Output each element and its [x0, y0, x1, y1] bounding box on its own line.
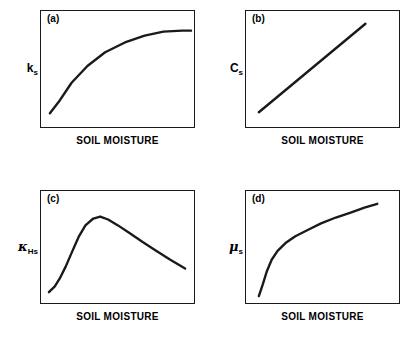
panel-a-curve: [41, 11, 194, 127]
panel-a-y-axis-label: ks: [0, 62, 38, 77]
panel-a-curve-path: [50, 31, 191, 114]
panel-c-x-axis-label: SOIL MOISTURE: [40, 311, 195, 322]
figure-soil-moisture-relationships: ks (a) SOIL MOISTURE Cs (b) SOIL MOISTUR…: [0, 0, 407, 340]
panel-b-plot-frame: (b): [245, 10, 400, 128]
panel-c-curve: [41, 191, 194, 303]
panel-d-y-axis-label: μs: [205, 240, 243, 256]
panel-a-y-symbol: k: [27, 61, 34, 75]
panel-c-y-axis-label: κHs: [0, 240, 38, 256]
panel-a-x-axis-label: SOIL MOISTURE: [40, 135, 195, 146]
panel-b-y-subscript: s: [239, 68, 243, 77]
panel-b-x-axis-label: SOIL MOISTURE: [245, 135, 400, 146]
panel-a-y-subscript: s: [34, 68, 38, 77]
panel-d: μs (d) SOIL MOISTURE: [205, 184, 405, 340]
panel-b-y-symbol: C: [230, 61, 239, 75]
panel-b: Cs (b) SOIL MOISTURE: [205, 4, 405, 164]
panel-d-y-symbol: μ: [229, 239, 239, 254]
panel-c-curve-path: [49, 217, 185, 293]
panel-b-y-axis-label: Cs: [205, 62, 243, 77]
panel-c-y-subscript: Hs: [28, 247, 38, 256]
panel-d-curve-path: [259, 204, 377, 296]
panel-a: ks (a) SOIL MOISTURE: [0, 4, 200, 164]
panel-d-x-axis-label: SOIL MOISTURE: [245, 311, 400, 322]
panel-a-plot-frame: (a): [40, 10, 195, 128]
panel-c-plot-frame: (c): [40, 190, 195, 304]
panel-c: κHs (c) SOIL MOISTURE: [0, 184, 200, 340]
panel-b-curve: [246, 11, 399, 127]
panel-d-curve: [246, 191, 399, 303]
panel-d-y-subscript: s: [239, 247, 243, 256]
panel-c-y-symbol: κ: [18, 239, 28, 254]
panel-d-plot-frame: (d): [245, 190, 400, 304]
panel-b-curve-path: [259, 24, 366, 112]
